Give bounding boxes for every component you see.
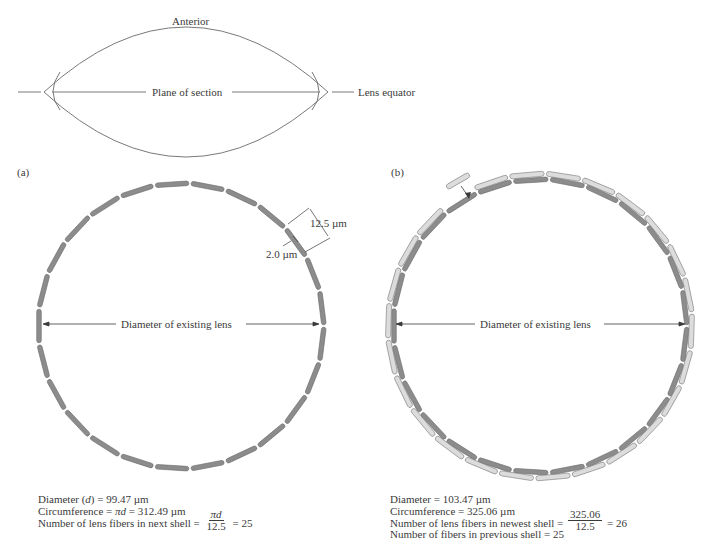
lens-fiber xyxy=(317,291,326,325)
lens-fiber xyxy=(225,445,257,463)
lens-fiber xyxy=(191,460,225,471)
lens-fiber xyxy=(46,379,66,411)
fiber-count-stat: Number of lens fibers in newest shell = … xyxy=(390,517,627,529)
panel-a-dimension-markers xyxy=(283,208,330,252)
fraction: πd12.5 xyxy=(204,509,227,532)
panel-a-stats: Diameter (d) = 99.47 µm Circumference = … xyxy=(38,494,252,529)
lens-fiber xyxy=(90,435,121,457)
lens-fiber xyxy=(385,303,391,338)
panel-b-diameter-label: Diameter of existing lens xyxy=(480,318,591,330)
lens-fiber xyxy=(64,409,90,437)
lens-fiber xyxy=(284,395,307,425)
lens-fiber xyxy=(37,309,42,342)
lens-fiber xyxy=(225,188,257,206)
panel-b-stats: Diameter = 103.47 µm Circumference = 325… xyxy=(390,494,627,540)
lens-fiber xyxy=(446,192,478,214)
plane-of-section-label: Plane of section xyxy=(152,86,222,98)
fiber-count-stat: Number of lens fibers in next shell = πd… xyxy=(38,517,252,529)
previous-shell-stat: Number of fibers in previous shell = 25 xyxy=(390,529,627,541)
anterior-label: Anterior xyxy=(172,15,209,27)
panel-a-label: (a) xyxy=(17,166,29,178)
lens-fiber xyxy=(392,309,397,343)
lens-fiber xyxy=(155,464,189,471)
lens-inner-arc-right xyxy=(312,72,319,110)
lens-inner-arc-left xyxy=(53,72,60,110)
lens-fiber xyxy=(64,215,90,243)
panel-b-label: (b) xyxy=(391,166,404,178)
fiber-length-label: 12.5 µm xyxy=(310,217,347,229)
lens-fiber xyxy=(257,423,286,448)
lens-fiber xyxy=(688,314,694,349)
lens-fiber xyxy=(46,242,66,274)
diameter-stat: Diameter = 103.47 µm xyxy=(390,494,627,506)
panel-b-new-fiber xyxy=(445,172,471,199)
lens-fiber xyxy=(191,181,225,192)
lens-fiber xyxy=(305,257,322,290)
fiber-width-label: 2.0 µm xyxy=(266,248,297,260)
lens-equator-label: Lens equator xyxy=(358,86,415,98)
lens-fiber xyxy=(120,454,153,469)
lens-fiber xyxy=(155,181,189,188)
lens-fiber-diagram xyxy=(0,0,704,552)
lens-fiber xyxy=(37,274,50,308)
lens-fiber xyxy=(120,184,153,199)
lens-fiber xyxy=(90,195,121,217)
panel-a-diameter-label: Diameter of existing lens xyxy=(121,318,232,330)
lens-fiber xyxy=(317,327,326,361)
lens-fiber xyxy=(257,204,286,229)
lens-fiber xyxy=(305,362,322,395)
lens-fiber xyxy=(37,345,50,379)
